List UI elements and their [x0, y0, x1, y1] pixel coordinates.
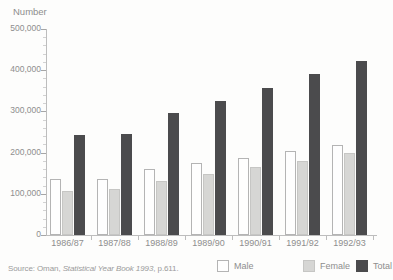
bar-male [332, 145, 343, 235]
y-minor-tick [43, 78, 46, 79]
y-minor-tick [43, 128, 46, 129]
y-tick-label: 500,000 [1, 24, 41, 33]
y-major-tick [41, 194, 46, 195]
source-note-suffix: , p.611. [153, 264, 178, 273]
x-tick-label: 1988/89 [138, 239, 186, 249]
y-tick-label: 100,000 [1, 189, 41, 198]
bar-female [297, 161, 308, 235]
bar-male [191, 163, 202, 235]
y-tick-label: 0 [1, 230, 41, 239]
source-note-prefix: Source: Oman, [8, 264, 63, 273]
x-tick-label: 1991/92 [279, 239, 327, 249]
bar-male [97, 179, 108, 235]
bar-male [238, 158, 249, 235]
y-minor-tick [43, 186, 46, 187]
bar-chart-figure: Number Source: Oman, Statistical Year Bo… [0, 0, 393, 280]
bar-total [309, 74, 320, 235]
bar-total [121, 134, 132, 235]
x-axis-line [46, 235, 377, 236]
y-minor-tick [43, 161, 46, 162]
y-major-tick [41, 235, 46, 236]
bar-female [156, 181, 167, 235]
legend-label-male: Male [234, 261, 254, 271]
bar-total [168, 113, 179, 235]
x-tick-label: 1992/93 [326, 239, 374, 249]
bar-female [109, 189, 120, 235]
x-tick-label: 1990/91 [232, 239, 280, 249]
y-minor-tick [43, 95, 46, 96]
legend-item-male: Male [217, 260, 254, 272]
legend-item-total: Total [356, 260, 392, 272]
bar-total [356, 61, 367, 235]
x-tick-label: 1987/88 [91, 239, 139, 249]
legend-swatch-female [303, 260, 315, 272]
y-major-tick [41, 111, 46, 112]
y-major-tick [41, 29, 46, 30]
y-minor-tick [43, 202, 46, 203]
y-minor-tick [43, 177, 46, 178]
bar-female [62, 191, 73, 235]
y-major-tick [41, 153, 46, 154]
legend-item-female: Female [303, 260, 350, 272]
y-minor-tick [43, 227, 46, 228]
y-minor-tick [43, 120, 46, 121]
legend-swatch-total [356, 260, 368, 272]
y-minor-tick [43, 136, 46, 137]
y-minor-tick [43, 62, 46, 63]
y-minor-tick [43, 210, 46, 211]
legend-label-total: Total [373, 261, 392, 271]
y-minor-tick [43, 87, 46, 88]
legend-swatch-male [217, 260, 229, 272]
y-tick-label: 200,000 [1, 148, 41, 157]
x-tick-label: 1986/87 [44, 239, 92, 249]
source-note-book-title: Statistical Year Book 1993 [63, 264, 154, 273]
y-axis-title: Number [13, 7, 47, 17]
y-minor-tick [43, 45, 46, 46]
y-major-tick [41, 70, 46, 71]
y-minor-tick [43, 37, 46, 38]
y-tick-label: 300,000 [1, 106, 41, 115]
y-tick-label: 400,000 [1, 65, 41, 74]
bar-total [74, 135, 85, 235]
y-minor-tick [43, 169, 46, 170]
bar-male [50, 179, 61, 235]
source-note: Source: Oman, Statistical Year Book 1993… [8, 264, 179, 273]
bar-total [262, 88, 273, 235]
bar-total [215, 101, 226, 235]
y-minor-tick [43, 144, 46, 145]
bar-male [144, 169, 155, 235]
bar-female [250, 167, 261, 235]
y-minor-tick [43, 219, 46, 220]
legend-label-female: Female [320, 261, 350, 271]
y-axis-line [46, 29, 47, 235]
y-minor-tick [43, 54, 46, 55]
y-minor-tick [43, 103, 46, 104]
bar-male [285, 151, 296, 235]
x-tick-label: 1989/90 [185, 239, 233, 249]
bar-female [344, 153, 355, 235]
bar-female [203, 174, 214, 235]
